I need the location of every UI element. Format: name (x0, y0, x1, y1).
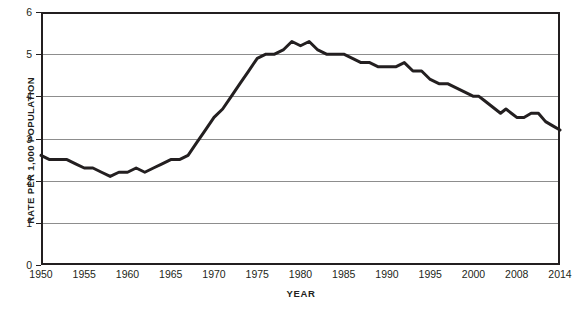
x-tick-label: 2000 (451, 268, 497, 280)
y-tick-label: 1 (4, 217, 32, 229)
x-tick-label: 1970 (191, 268, 237, 280)
x-tick-label: 1960 (105, 268, 151, 280)
plot-area (41, 12, 560, 265)
y-tick-mark (36, 265, 41, 266)
y-tick-mark (36, 139, 41, 140)
y-tick-label: 4 (4, 90, 32, 102)
y-tick-mark (36, 96, 41, 97)
x-tick-label: 1965 (148, 268, 194, 280)
x-tick-label: 1975 (234, 268, 280, 280)
x-tick-label: 1985 (321, 268, 367, 280)
x-tick-label: 1995 (407, 268, 453, 280)
y-tick-label: 5 (4, 48, 32, 60)
y-tick-label: 3 (4, 133, 32, 145)
y-tick-label: 6 (4, 6, 32, 18)
y-tick-label: 2 (4, 175, 32, 187)
chart-container: RATE PER 1,000 POPULATION 0123456 195019… (0, 0, 584, 309)
x-tick-label: 2014 (537, 268, 583, 280)
x-tick-label: 2008 (494, 268, 540, 280)
line-series (41, 12, 560, 265)
x-axis-title: YEAR (41, 288, 561, 299)
y-tick-mark (36, 223, 41, 224)
x-tick-label: 1980 (278, 268, 324, 280)
y-tick-mark (36, 12, 41, 13)
series-polyline (41, 42, 560, 177)
y-tick-mark (36, 181, 41, 182)
x-tick-label: 1955 (61, 268, 107, 280)
x-tick-label: 1950 (18, 268, 64, 280)
x-tick-label: 1990 (364, 268, 410, 280)
y-tick-mark (36, 54, 41, 55)
